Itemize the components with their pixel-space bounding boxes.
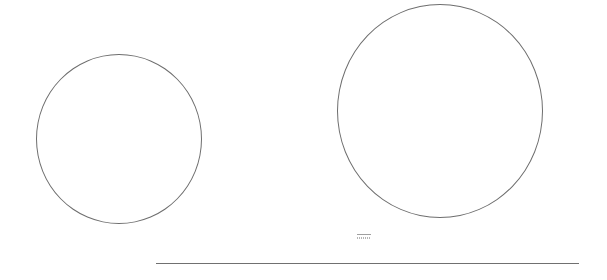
small-text-graphic-icon [355, 231, 373, 242]
right-circle [337, 4, 543, 218]
icon-bar [357, 234, 371, 235]
horizontal-baseline [156, 263, 579, 264]
icon-ticks [357, 237, 371, 239]
left-circle [36, 54, 202, 224]
diagram-canvas [0, 0, 607, 280]
